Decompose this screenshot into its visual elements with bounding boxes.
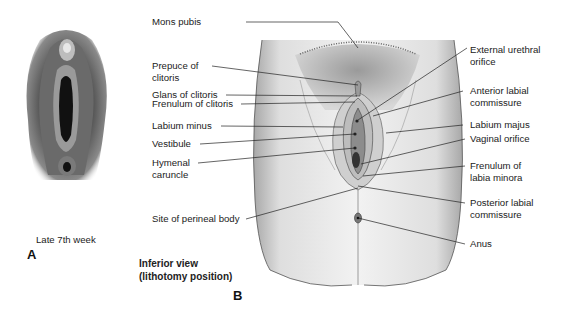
panel-a-illustration [27, 30, 107, 180]
panel-a-letter: A [27, 247, 36, 262]
label-posterior-labial-commissure: Posterior labialcommissure [470, 197, 533, 221]
label-frenulum-of-labia-minora: Frenulum oflabia minora [470, 160, 522, 184]
panel-a-caption: Late 7th week [36, 234, 96, 246]
label-vaginal-orifice: Vaginal orifice [470, 133, 530, 145]
label-vestibule: Vestibule [152, 138, 191, 150]
panel-b-illustration [254, 40, 463, 286]
label-frenulum-of-clitoris: Frenulum of clitoris [152, 98, 233, 110]
label-external-urethral-orifice: External urethralorifice [470, 44, 540, 68]
label-anterior-labial-commissure: Anterior labialcommissure [470, 85, 529, 109]
label-site-of-perineal-body: Site of perineal body [152, 213, 239, 225]
label-prepuce-of-clitoris: Prepuce ofclitoris [152, 60, 198, 84]
label-labium-majus: Labium majus [470, 119, 530, 131]
panel-b-letter: B [233, 288, 242, 303]
label-hymenal-caruncle: Hymenalcaruncle [152, 157, 190, 181]
label-labium-minus: Labium minus [152, 120, 212, 132]
panel-b-view-caption: Inferior view(lithotomy position) [139, 258, 232, 283]
label-anus: Anus [470, 238, 492, 250]
label-mons-pubis: Mons pubis [152, 16, 201, 28]
